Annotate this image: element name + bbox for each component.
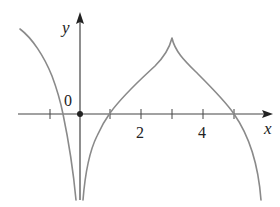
function-graph: y x 0 2 4 xyxy=(0,0,280,207)
tick-label-2: 2 xyxy=(136,124,144,141)
y-axis-label: y xyxy=(60,18,70,37)
y-axis xyxy=(76,12,84,200)
origin-label: 0 xyxy=(64,92,72,109)
origin-point xyxy=(77,111,83,117)
tick-label-4: 4 xyxy=(198,124,206,141)
x-axis-label: x xyxy=(263,119,272,138)
